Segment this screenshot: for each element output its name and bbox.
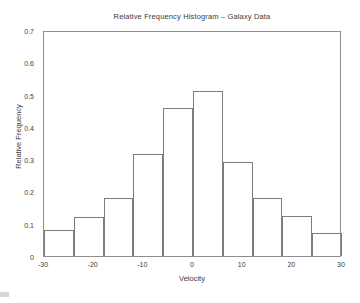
x-tick-label: -30 — [38, 261, 48, 268]
histogram-bar — [163, 108, 193, 257]
x-tick-label: 30 — [337, 261, 345, 268]
y-tick-label: 0.3 — [0, 157, 38, 164]
histogram-bar — [253, 198, 283, 256]
x-tick-label: -10 — [137, 261, 147, 268]
histogram-bar — [133, 154, 163, 256]
x-tick-label: -20 — [88, 261, 98, 268]
histogram-bar — [193, 91, 223, 256]
x-axis-label: Velocity — [43, 274, 341, 283]
x-tick-label: 10 — [238, 261, 246, 268]
histogram-bar — [282, 216, 312, 256]
histogram-bar — [74, 217, 104, 256]
histogram-bar — [223, 162, 253, 256]
histogram-bar — [44, 230, 74, 256]
y-tick-label: 0.2 — [0, 189, 38, 196]
y-tick-label: 0.7 — [0, 28, 38, 35]
plot-area — [43, 31, 341, 257]
x-tick-label: 20 — [287, 261, 295, 268]
y-tick-label: 0 — [0, 254, 38, 261]
page-corner-artifact — [0, 292, 9, 297]
x-tick-label: 0 — [190, 261, 194, 268]
histogram-figure: Relative Frequency Histogram – Galaxy Da… — [0, 0, 360, 303]
y-tick-label: 0.1 — [0, 221, 38, 228]
histogram-bars — [44, 32, 340, 256]
histogram-bar — [312, 233, 342, 256]
chart-title: Relative Frequency Histogram – Galaxy Da… — [43, 12, 341, 21]
y-tick-label: 0.6 — [0, 60, 38, 67]
histogram-bar — [104, 198, 134, 256]
y-tick-label: 0.4 — [0, 124, 38, 131]
y-tick-label: 0.5 — [0, 92, 38, 99]
